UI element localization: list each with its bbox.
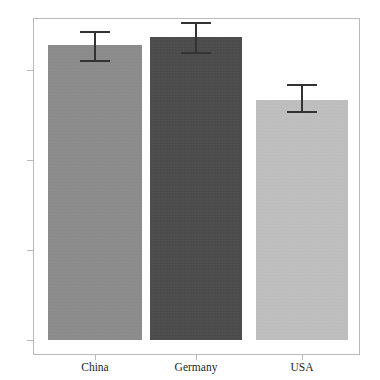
y-axis: 30% 20% 10% 0% [0,0,33,380]
error-bar-stem [94,32,96,61]
error-bar-cap-top [287,84,317,86]
bar-texture [48,45,142,340]
bar-china[interactable] [48,45,142,340]
error-bar-cap-top [181,22,211,24]
error-bar-cap-bottom [181,52,211,54]
x-tick-label-germany: Germany [146,357,246,377]
bar-texture [256,100,348,340]
x-tick-label-china: China [45,357,145,377]
bar-group-usa [256,100,348,340]
bar-group-germany [150,37,242,340]
bar-chart: 30% 20% 10% 0% [0,0,380,380]
x-axis: China Germany USA [33,357,360,379]
bars-layer [33,18,360,355]
x-tick-label-usa: USA [252,357,352,377]
bar-usa[interactable] [256,100,348,340]
bar-texture [150,37,242,340]
bar-germany[interactable] [150,37,242,340]
error-bar-cap-bottom [287,111,317,113]
bar-group-china [48,45,142,340]
error-bar-stem [301,85,303,112]
error-bar-cap-bottom [80,60,110,62]
error-bar-cap-top [80,31,110,33]
error-bar-stem [195,23,197,53]
